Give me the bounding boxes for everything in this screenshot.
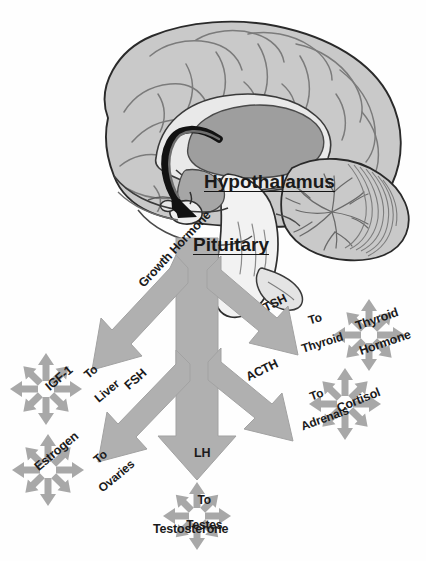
acth-text: ACTH <box>244 356 281 383</box>
cortisol-text: Cortisol <box>335 385 383 415</box>
to-liver-line1: To <box>81 362 100 381</box>
thyroid-hormone-line2: Hormone <box>357 327 412 358</box>
label-hypothalamus-text: Hypothalamus <box>204 172 335 192</box>
to-ovaries-line1: To <box>91 447 110 466</box>
to-thyroid-line1: To <box>307 310 324 327</box>
to-testes-line1: To <box>198 493 211 507</box>
lh-text: LH <box>194 446 210 460</box>
testosterone-text: Testosterone <box>153 522 228 536</box>
igf1-text: IGF-1 <box>43 363 76 394</box>
to-thyroid-line2: Thyroid <box>300 329 345 355</box>
label-testosterone: Testosterone <box>140 510 228 548</box>
thyroid-hormone-line1: Thyroid <box>353 305 400 333</box>
diagram-canvas: Hypothalamus Pituitary Growth Hormone To… <box>0 0 426 561</box>
label-lh: LH <box>181 434 210 472</box>
